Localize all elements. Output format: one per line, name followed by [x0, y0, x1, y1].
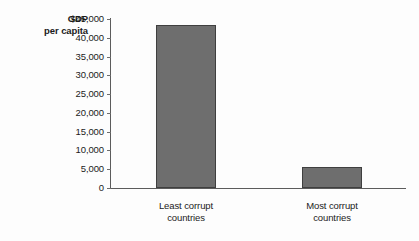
y-axis-tick-label-text: 20,000: [0, 108, 104, 118]
gdp-corruption-bar-chart: GDP per capita $45,00040,00035,00030,000…: [0, 0, 419, 241]
y-axis-tick-label-text: 40,000: [0, 33, 104, 43]
y-axis-tick-label-text: 35,000: [0, 52, 104, 62]
y-axis-line: [110, 18, 111, 189]
y-axis-tick-label: 10,000: [0, 145, 104, 155]
y-axis-tick-label: $45,000: [0, 14, 104, 24]
y-axis-tick: [107, 57, 111, 58]
bar: [156, 25, 216, 188]
y-axis-tick-label-text: 0: [0, 183, 104, 193]
y-axis-tick-label-text: 5,000: [0, 164, 104, 174]
y-axis-tick: [107, 94, 111, 95]
y-axis-tick-label: 35,000: [0, 52, 104, 62]
y-axis-tick: [107, 188, 111, 189]
y-axis-tick-label: 30,000: [0, 70, 104, 80]
y-axis-tick-label-text: 10,000: [0, 145, 104, 155]
x-axis-line: [110, 188, 406, 189]
x-axis-category-label-line: countries: [272, 212, 392, 224]
x-axis-category-label: Least corruptcountries: [126, 200, 246, 223]
y-axis-tick: [107, 113, 111, 114]
y-axis-tick-label: 25,000: [0, 89, 104, 99]
y-axis-tick-label-text: 30,000: [0, 70, 104, 80]
y-axis-tick-label-text: 15,000: [0, 127, 104, 137]
y-axis-tick-label-text: $45,000: [0, 14, 104, 24]
y-axis-tick-label: 20,000: [0, 108, 104, 118]
y-axis-tick-label: 0: [0, 183, 104, 193]
y-axis-tick: [107, 169, 111, 170]
y-axis-tick: [107, 75, 111, 76]
x-axis-category-label-line: Least corrupt: [126, 200, 246, 212]
y-axis-tick: [107, 19, 111, 20]
y-axis-tick: [107, 38, 111, 39]
y-axis-tick-label: 5,000: [0, 164, 104, 174]
x-axis-category-label-line: countries: [126, 212, 246, 224]
y-axis-tick-label-text: 25,000: [0, 89, 104, 99]
x-axis-category-label: Most corruptcountries: [272, 200, 392, 223]
y-axis-tick-label: 15,000: [0, 127, 104, 137]
y-axis-tick: [107, 132, 111, 133]
y-axis-tick: [107, 150, 111, 151]
bar: [302, 167, 362, 188]
x-axis-category-label-line: Most corrupt: [272, 200, 392, 212]
y-axis-tick-label: 40,000: [0, 33, 104, 43]
